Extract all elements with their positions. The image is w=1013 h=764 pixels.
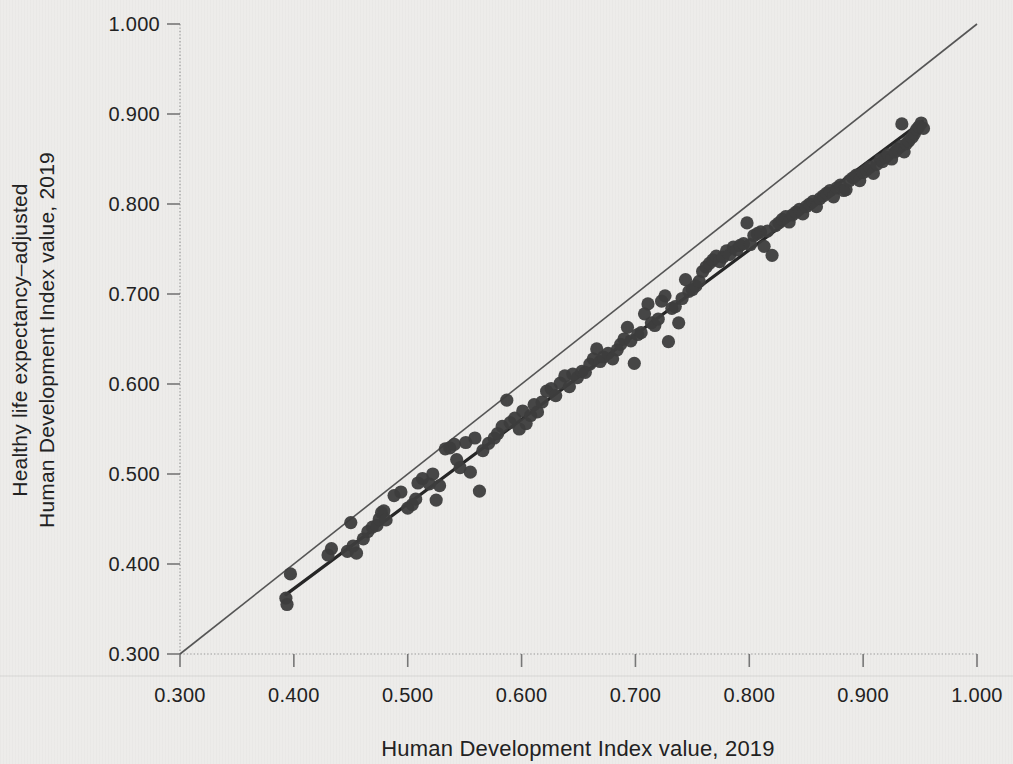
data-point (549, 389, 562, 402)
data-point (280, 598, 293, 611)
data-point (468, 431, 481, 444)
data-point (284, 567, 297, 580)
data-point (325, 542, 338, 555)
x-tick-label: 1.000 (951, 684, 1003, 706)
y-tick-label: 0.500 (108, 463, 160, 485)
data-point (433, 479, 446, 492)
x-tick-label: 0.400 (268, 684, 320, 706)
data-point (394, 485, 407, 498)
scatter-plot: 0.3000.4000.5000.6000.7000.8000.9001.000… (0, 0, 1013, 764)
x-tick-label: 0.600 (496, 684, 548, 706)
y-tick-label: 0.600 (108, 373, 160, 395)
y-tick-label: 1.000 (108, 13, 160, 35)
data-point (895, 117, 908, 130)
plot-axes: 0.3000.4000.5000.6000.7000.8000.9001.000… (108, 13, 1002, 706)
y-tick-label: 0.300 (108, 643, 160, 665)
x-tick-label: 0.900 (837, 684, 889, 706)
y-axis-title-line-1: Healthy life expectancy–adjusted (8, 183, 31, 496)
plot-points (279, 116, 930, 611)
x-tick-label: 0.700 (610, 684, 662, 706)
data-point (473, 485, 486, 498)
y-tick-label: 0.800 (108, 193, 160, 215)
data-point (658, 289, 671, 302)
identity-line (180, 24, 977, 654)
y-tick-label: 0.700 (108, 283, 160, 305)
data-point (500, 394, 513, 407)
data-point (641, 297, 654, 310)
data-point (409, 493, 422, 506)
data-point (740, 216, 753, 229)
y-tick-label: 0.900 (108, 103, 160, 125)
data-point (628, 357, 641, 370)
x-axis-title: Human Development Index value, 2019 (381, 736, 774, 761)
data-point (652, 313, 665, 326)
data-point (350, 547, 363, 560)
x-tick-label: 0.300 (154, 684, 206, 706)
data-point (344, 516, 357, 529)
data-point (765, 249, 778, 262)
data-point (430, 494, 443, 507)
data-point (379, 513, 392, 526)
y-tick-label: 0.400 (108, 553, 160, 575)
data-point (917, 122, 930, 135)
data-point (635, 326, 648, 339)
data-point (426, 467, 439, 480)
scanned-report-page: 0.3000.4000.5000.6000.7000.8000.9001.000… (0, 0, 1013, 764)
data-point (464, 466, 477, 479)
data-point (448, 438, 461, 451)
plot-lines (180, 24, 977, 654)
x-tick-label: 0.800 (724, 684, 776, 706)
data-point (672, 316, 685, 329)
y-axis-title-line-2: Human Development Index value, 2019 (35, 152, 58, 528)
data-point (662, 335, 675, 348)
x-tick-label: 0.500 (382, 684, 434, 706)
